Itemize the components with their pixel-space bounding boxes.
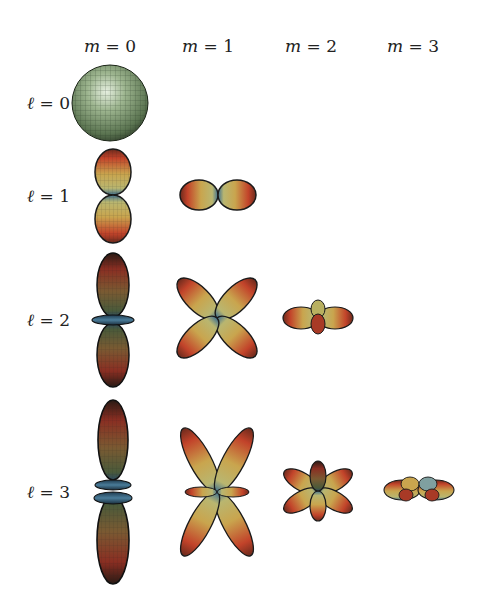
shape-l2-m0 [92, 253, 134, 387]
shape-l2-m1 [170, 271, 263, 364]
shape-l3-m0 [94, 400, 132, 584]
shape-l2-m2 [283, 300, 353, 334]
harmonics-figure [0, 0, 477, 613]
shape-l1-m1 [180, 180, 256, 210]
shape-l3-m1 [173, 423, 260, 560]
shape-l1-m0 [95, 149, 131, 243]
shape-l0-m0 [72, 65, 148, 141]
shape-l3-m3 [384, 477, 454, 501]
shape-l3-m2 [280, 461, 357, 521]
